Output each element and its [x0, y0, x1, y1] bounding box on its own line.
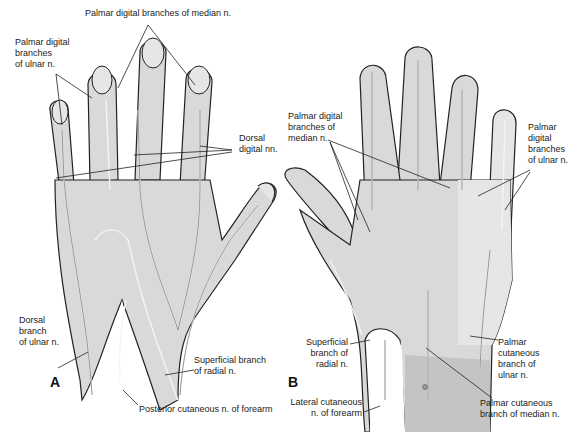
- label-a-dorsal-digital: Dorsal digital nn.: [239, 133, 278, 155]
- label-a-posterior-cutaneous: Posterior cutaneous n. of forearm: [139, 404, 273, 415]
- label-b-palmar-digital-median: Palmar digital branches of median n.: [288, 111, 343, 144]
- label-b-palmar-digital-ulnar: Palmar digital branches of ulnar n.: [528, 122, 568, 166]
- label-a-palmar-digital-median: Palmar digital branches of median n.: [85, 8, 231, 19]
- label-a-palmar-digital-ulnar: Palmar digital branches of ulnar n.: [15, 37, 70, 70]
- panel-letter-a: A: [50, 374, 60, 390]
- label-a-dorsal-branch-ulnar: Dorsal branch of ulnar n.: [19, 315, 59, 348]
- anatomy-figure: Palmar digital branches of median n. Pal…: [0, 0, 579, 432]
- panel-letter-b: B: [288, 374, 298, 390]
- label-b-lateral-cutaneous: Lateral cutaneous n. of forearm: [290, 397, 362, 419]
- label-b-palmar-cutaneous-median: Palmar cutaneous branch of median n.: [480, 398, 560, 420]
- label-a-superficial-radial: Superficial branch of radial n.: [194, 355, 266, 377]
- label-b-palmar-cutaneous-ulnar: Palmar cutaneous branch of ulnar n.: [498, 337, 540, 381]
- hand-illustrations: [0, 0, 579, 432]
- label-b-superficial-radial: Superficial branch of radial n.: [300, 337, 348, 370]
- nerve-end-marker: [423, 385, 428, 390]
